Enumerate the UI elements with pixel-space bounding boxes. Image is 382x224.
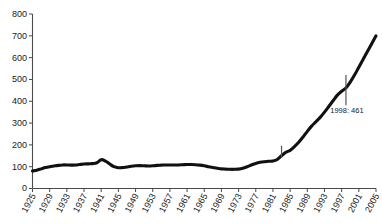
x-tick-label: 1973 — [226, 192, 244, 214]
y-tick-label: 100 — [12, 162, 27, 172]
x-tick-label: 1925 — [20, 192, 38, 214]
x-tick-label: 1977 — [243, 192, 261, 214]
x-tick-label: 1933 — [54, 192, 72, 214]
x-tick-label: 1989 — [294, 192, 312, 214]
x-tick-group: 1925192919331937194119451949195319571961… — [20, 189, 382, 215]
y-tick-label: 300 — [12, 118, 27, 128]
y-tick-label: 0 — [22, 183, 27, 193]
series-group — [33, 36, 377, 171]
y-tick-label: 700 — [12, 31, 27, 41]
chart-canvas: 0100200300400500600700800 19251929193319… — [0, 0, 382, 224]
line-chart: 0100200300400500600700800 19251929193319… — [0, 0, 382, 224]
annotation-label: 1998: 461 — [330, 106, 363, 115]
x-tick-label: 2001 — [346, 192, 364, 214]
x-tick-label: 1953 — [140, 192, 158, 214]
y-tick-label: 600 — [12, 53, 27, 63]
x-tick-label: 1993 — [312, 192, 330, 214]
x-tick-label: 1949 — [123, 192, 141, 214]
data-line — [33, 36, 377, 171]
x-tick-label: 1969 — [208, 192, 226, 214]
x-tick-label: 1997 — [329, 192, 347, 214]
x-tick-label: 1945 — [105, 192, 123, 214]
x-tick-label: 2005 — [363, 192, 381, 214]
x-tick-label: 1965 — [191, 192, 209, 214]
x-tick-label: 1937 — [71, 192, 89, 214]
x-tick-label: 1981 — [260, 192, 278, 214]
x-tick-label: 1985 — [277, 192, 295, 214]
y-tick-group: 0100200300400500600700800 — [12, 9, 33, 194]
y-tick-label: 400 — [12, 96, 27, 106]
x-tick-label: 1929 — [37, 192, 55, 214]
x-tick-label: 1941 — [88, 192, 106, 214]
x-tick-label: 1957 — [157, 192, 175, 214]
y-tick-label: 200 — [12, 140, 27, 150]
x-tick-label: 1961 — [174, 192, 192, 214]
y-tick-label: 500 — [12, 74, 27, 84]
y-tick-label: 800 — [12, 9, 27, 19]
